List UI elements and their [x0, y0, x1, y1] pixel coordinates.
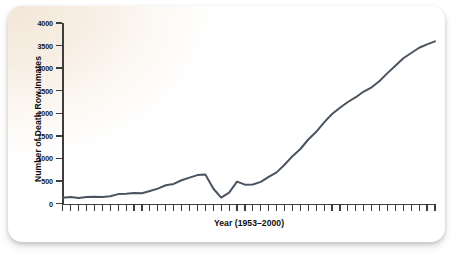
plot-area: 05001000150020002500300035004000 Number …: [8, 6, 445, 242]
death-row-inmates-line: [63, 41, 435, 198]
data-series-svg: [8, 6, 445, 242]
chart-card: 05001000150020002500300035004000 Number …: [8, 6, 445, 242]
